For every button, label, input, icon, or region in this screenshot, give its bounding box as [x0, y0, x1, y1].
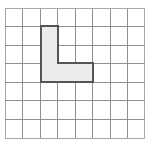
grid-line-horizontal-5: [5, 100, 145, 101]
shape-cell: [40, 45, 58, 63]
figure-root: Grid with shaded L-shaped region: [0, 0, 150, 146]
shape-cell: [40, 63, 58, 82]
shape-cell: [75, 63, 93, 82]
grid-line-horizontal-0: [5, 8, 145, 9]
grid-line-horizontal-2: [5, 45, 145, 46]
grid-line-horizontal-6: [5, 119, 145, 120]
grid-area: [5, 8, 145, 139]
grid-line-horizontal-7: [5, 138, 145, 139]
grid-line-horizontal-3: [5, 63, 145, 64]
figure-title: Grid with shaded L-shaped region: [0, 0, 1, 1]
shape-cell: [40, 26, 58, 45]
grid-line-horizontal-4: [5, 82, 145, 83]
shape-cell: [58, 63, 75, 82]
grid-line-horizontal-1: [5, 26, 145, 27]
